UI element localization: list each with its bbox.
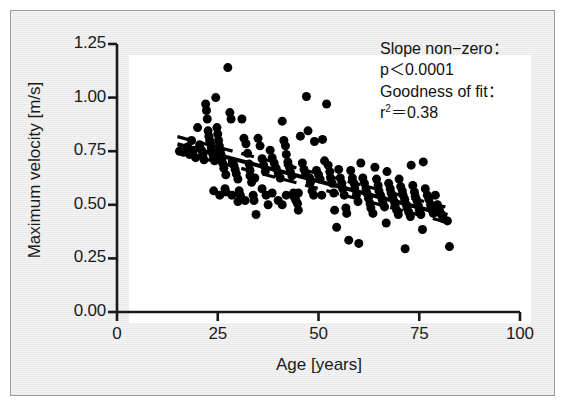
y-tick-label: 0.25 — [28, 247, 106, 267]
scatter-point — [418, 225, 427, 234]
r-value: ＝0.38 — [391, 104, 438, 121]
scatter-point — [258, 184, 267, 193]
scatter-point — [203, 115, 212, 124]
y-tick-label: 1.00 — [28, 87, 106, 107]
scatter-point — [202, 106, 211, 115]
scatter-point — [227, 115, 236, 124]
scatter-point — [368, 209, 377, 218]
scatter-point — [268, 189, 277, 198]
annotation-line-slope: Slope non−zero： — [380, 38, 509, 59]
confidence-lower — [177, 152, 447, 223]
scatter-point — [252, 210, 261, 219]
scatter-point — [302, 92, 311, 101]
scatter-point — [237, 115, 246, 124]
scatter-point — [211, 93, 220, 102]
scatter-point — [401, 244, 410, 253]
scatter-point — [250, 174, 259, 183]
scatter-point — [233, 175, 242, 184]
x-tick-label: 100 — [490, 324, 550, 344]
scatter-point — [383, 167, 392, 176]
scatter-point — [309, 191, 318, 200]
y-tick-label: 1.25 — [28, 33, 106, 53]
scatter-point — [215, 191, 224, 200]
scatter-point — [445, 242, 454, 251]
scatter-point — [276, 174, 285, 183]
scatter-point — [344, 236, 353, 245]
scatter-point — [278, 117, 287, 126]
statistics-annotation: Slope non−zero： p＜0.0001 Goodness of fit… — [380, 38, 509, 123]
scatter-point — [342, 209, 351, 218]
figure-container: Maximum velocity [m/s] Age [years] 0.000… — [0, 0, 565, 406]
scatter-point — [281, 141, 290, 150]
scatter-point — [395, 175, 404, 184]
scatter-point — [250, 196, 259, 205]
scatter-point — [278, 200, 287, 209]
x-tick-label: 50 — [289, 324, 349, 344]
scatter-point — [296, 132, 305, 141]
annotation-line-goodness: Goodness of fit： — [380, 81, 509, 102]
x-tick-label: 0 — [87, 324, 147, 344]
scatter-point — [310, 137, 319, 146]
scatter-point — [282, 150, 291, 159]
scatter-point — [294, 206, 303, 215]
scatter-point — [340, 191, 349, 200]
scatter-point — [419, 157, 428, 166]
annotation-line-pvalue: p＜0.0001 — [380, 59, 509, 80]
scatter-point — [221, 170, 230, 179]
scatter-point — [356, 158, 365, 167]
scatter-point — [264, 200, 273, 209]
y-tick-label: 0.75 — [28, 140, 106, 160]
scatter-point — [282, 191, 291, 200]
annotation-line-rsquared: r2＝0.38 — [380, 102, 509, 124]
scatter-point — [223, 63, 232, 72]
scatter-point — [431, 191, 440, 200]
scatter-point — [304, 126, 313, 135]
scatter-point — [322, 100, 331, 109]
scatter-point — [294, 189, 303, 198]
scatter-point — [318, 135, 327, 144]
scatter-point — [354, 239, 363, 248]
scatter-point — [330, 206, 339, 215]
scatter-point — [256, 141, 265, 150]
scatter-point — [241, 139, 250, 148]
scatter-point — [332, 223, 341, 232]
scatter-point — [241, 196, 250, 205]
scatter-point — [193, 123, 202, 132]
y-tick-label: 0.50 — [28, 194, 106, 214]
scatter-point — [370, 163, 379, 172]
scatter-point — [334, 165, 343, 174]
x-tick-label: 75 — [389, 324, 449, 344]
scatter-point — [407, 161, 416, 170]
y-tick-label: 0.00 — [28, 301, 106, 321]
x-axis-title: Age [years] — [118, 355, 520, 375]
x-tick-label: 25 — [188, 324, 248, 344]
scatter-point — [346, 166, 355, 175]
scatter-point — [382, 219, 391, 228]
scatter-point — [317, 191, 326, 200]
regression-line — [177, 144, 447, 215]
